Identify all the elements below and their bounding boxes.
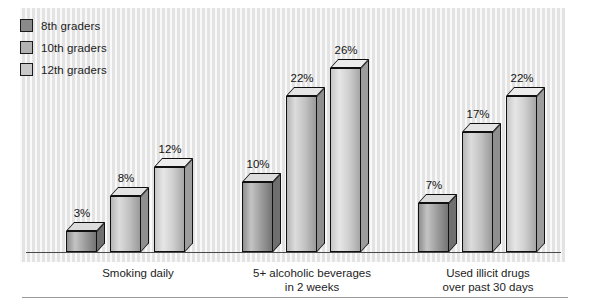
bar-front-face (242, 182, 273, 252)
legend-item-10th-graders[interactable]: 10th graders (20, 38, 107, 57)
bar-smoking-daily-10th[interactable]: 8% (110, 196, 141, 252)
category-label-alcohol: 5+ alcoholic beverages in 2 weeks (222, 266, 402, 294)
bar-value-label: 17% (448, 108, 508, 120)
category-label-illicit-drugs: Used illicit drugs over past 30 days (398, 266, 578, 294)
bar-value-label: 22% (272, 72, 332, 84)
legend-swatch-icon (20, 41, 33, 54)
bar-group-illicit-drugs: 7% 17% 22% (400, 12, 535, 252)
bar-front-face (462, 132, 493, 252)
footer-divider (22, 297, 568, 298)
bar-illicit-drugs-12th[interactable]: 22% (506, 96, 537, 252)
bar-smoking-daily-12th[interactable]: 12% (154, 167, 185, 252)
legend-item-label: 8th graders (41, 20, 100, 32)
bar-group-alcohol: 10% 22% 26% (224, 12, 359, 252)
bar-front-face (286, 96, 317, 252)
bar-front-face (110, 196, 141, 252)
legend-item-label: 10th graders (41, 42, 107, 54)
legend-item-8th-graders[interactable]: 8th graders (20, 16, 107, 35)
bar-front-face (66, 231, 97, 252)
legend-swatch-icon (20, 63, 33, 76)
bar-value-label: 8% (96, 172, 156, 184)
bar-side-face (185, 158, 193, 252)
category-label-smoking-daily: Smoking daily (48, 266, 228, 280)
bar-front-face (154, 167, 185, 252)
bar-value-label: 12% (140, 143, 200, 155)
bar-side-face (273, 173, 281, 252)
bar-value-label: 22% (492, 72, 552, 84)
bar-front-face (418, 203, 449, 252)
bar-side-face (493, 123, 501, 252)
bar-illicit-drugs-8th[interactable]: 7% (418, 203, 449, 252)
bar-side-face (317, 87, 325, 252)
legend: 8th graders 10th graders 12th graders (20, 16, 107, 82)
bar-side-face (361, 59, 369, 252)
bar-smoking-daily-8th[interactable]: 3% (66, 231, 97, 252)
bar-value-label: 3% (52, 207, 112, 219)
axis-baseline (26, 252, 561, 253)
bar-value-label: 10% (228, 158, 288, 170)
bar-side-face (537, 87, 545, 252)
legend-swatch-icon (20, 19, 33, 32)
bar-illicit-drugs-10th[interactable]: 17% (462, 132, 493, 252)
legend-item-label: 12th graders (41, 64, 107, 76)
bar-side-face (141, 187, 149, 252)
bar-alcohol-10th[interactable]: 22% (286, 96, 317, 252)
bar-value-label: 26% (316, 44, 376, 56)
bar-alcohol-12th[interactable]: 26% (330, 68, 361, 252)
bar-front-face (330, 68, 361, 252)
bar-front-face (506, 96, 537, 252)
legend-item-12th-graders[interactable]: 12th graders (20, 60, 107, 79)
bar-value-label: 7% (404, 179, 464, 191)
bar-side-face (449, 194, 457, 252)
bar-alcohol-8th[interactable]: 10% (242, 182, 273, 252)
